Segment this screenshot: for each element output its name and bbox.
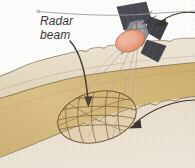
callout-arrow-icon bbox=[154, 12, 195, 26]
radar-beam-label: Radarbeam bbox=[40, 15, 73, 42]
diagram-canvas bbox=[0, 0, 195, 168]
radar-beam-label-line1: Radar bbox=[40, 14, 73, 28]
radar-beam-label-line2: beam bbox=[40, 28, 70, 42]
radar-beam-illustration: Radarbeam bbox=[0, 0, 195, 168]
